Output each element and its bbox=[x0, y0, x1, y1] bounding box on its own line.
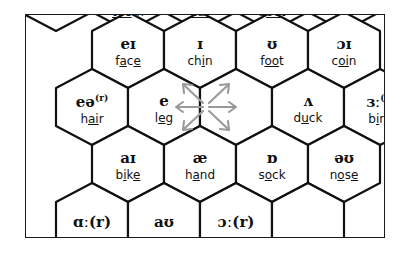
diagram-canvas: teeth ear boot eɪ face ɪ chin bbox=[0, 0, 400, 257]
honeycomb-clip: teeth ear boot eɪ face ɪ chin bbox=[26, 15, 384, 237]
hexagon-outlines bbox=[26, 15, 384, 237]
chart-frame: teeth ear boot eɪ face ɪ chin bbox=[25, 14, 385, 238]
